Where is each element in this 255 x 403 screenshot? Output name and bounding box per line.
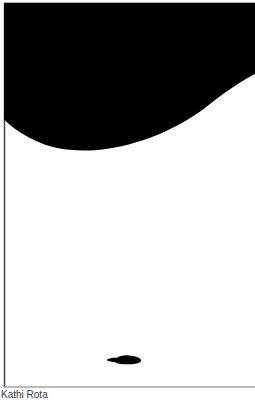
artwork <box>0 0 255 403</box>
small-black-blob <box>107 355 141 364</box>
black-curved-mass <box>4 3 255 151</box>
artist-caption: Kathi Rota <box>1 389 48 401</box>
